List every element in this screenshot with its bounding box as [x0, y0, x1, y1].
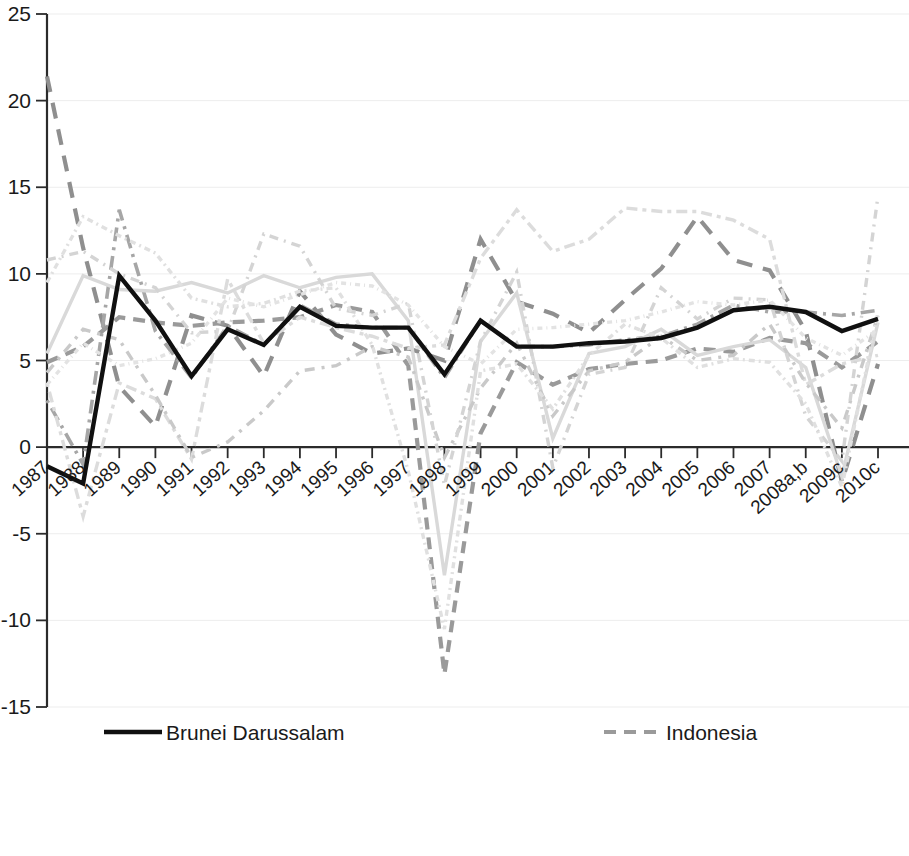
x-tick-label: 2006	[694, 456, 739, 500]
series-lines	[47, 76, 878, 674]
y-tick-label: 15	[8, 175, 31, 198]
x-tick-label: 2005	[658, 456, 703, 500]
y-tick-label: 10	[8, 262, 31, 285]
legend-swatch-icon	[604, 725, 662, 739]
x-tick-label: 1998	[405, 456, 450, 500]
y-axis-tick-labels: -15-10-50510152025	[1, 2, 31, 718]
x-tick-label: 1991	[152, 456, 197, 500]
chart-figure: -15-10-50510152025 198719881989199019911…	[0, 0, 909, 856]
chart-legend: Brunei DarussalamIndonesiaMalaysiaPhilip…	[0, 718, 909, 856]
legend-swatch-icon	[104, 725, 162, 739]
y-axis	[36, 14, 47, 707]
x-tick-label: 1997	[369, 456, 414, 500]
line-chart: -15-10-50510152025 198719881989199019911…	[0, 0, 909, 720]
x-tick-label: 1987	[7, 456, 52, 500]
x-tick-label: 2004	[621, 456, 667, 500]
legend-label: Brunei Darussalam	[166, 721, 345, 744]
x-tick-label: 1996	[332, 456, 377, 500]
x-tick-label: 1993	[224, 456, 269, 500]
x-tick-label: 2000	[477, 456, 522, 500]
y-tick-label: 25	[8, 2, 31, 25]
y-tick-label: 5	[19, 349, 31, 372]
series-line	[47, 315, 878, 457]
x-tick-label: 2002	[549, 456, 594, 500]
y-tick-label: 0	[19, 435, 31, 458]
x-tick-label: 2003	[585, 456, 630, 500]
legend-item[interactable]: Indonesia	[500, 718, 909, 746]
y-tick-label: -15	[1, 695, 31, 718]
x-axis-tick-labels: 1987198819891990199119921993199419951996…	[7, 456, 883, 518]
y-tick-label: -10	[1, 608, 31, 631]
y-tick-label: -5	[12, 522, 31, 545]
x-tick-label: 1992	[188, 456, 233, 500]
x-tick-label: 1994	[260, 456, 306, 500]
y-tick-label: 20	[8, 89, 31, 112]
x-tick-label: 1990	[116, 456, 161, 500]
legend-item[interactable]: Brunei Darussalam	[0, 718, 500, 746]
legend-label: Indonesia	[666, 721, 757, 744]
series-line	[47, 196, 878, 485]
x-tick-label: 1995	[296, 456, 341, 500]
